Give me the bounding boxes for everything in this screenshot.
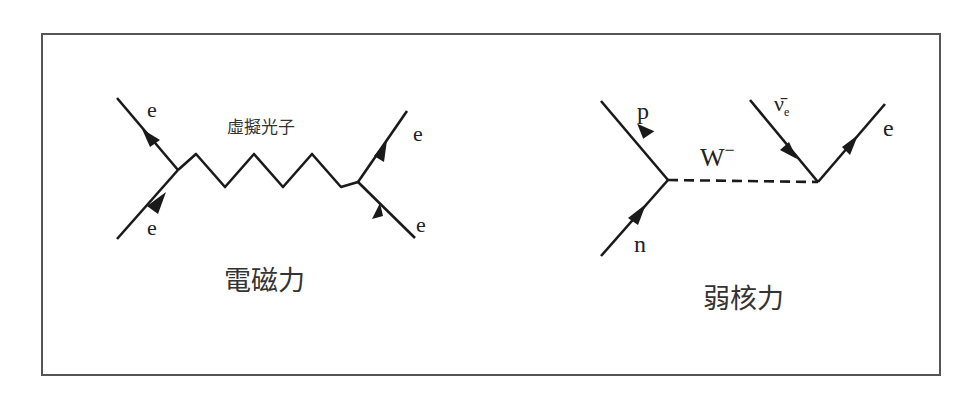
arrow-icon (635, 124, 655, 140)
arrow-icon (374, 140, 387, 162)
em-electron-in-right-line (358, 182, 415, 238)
weak-title: 弱核力 (703, 285, 784, 312)
weak-label-proton: p (637, 99, 649, 123)
em-title: 電磁力 (224, 267, 305, 294)
weak-label-neutron: n (634, 232, 646, 256)
weak-label-electron: e (883, 116, 894, 140)
feynman-diagrams (0, 0, 970, 397)
em-label-top-right: e (413, 123, 423, 145)
w-boson-dashed-line (668, 180, 818, 182)
proton-line (601, 101, 668, 180)
arrowheads (142, 124, 858, 225)
em-label-bottom-right: e (416, 214, 426, 236)
arrow-icon (780, 142, 797, 159)
em-label-bottom-left: e (147, 217, 157, 239)
w-boson-label: W− (700, 141, 735, 171)
em-label-top-left: e (147, 99, 157, 121)
virtual-photon-wavy-line (178, 154, 358, 187)
antineutrino-label: ν̄e (774, 93, 789, 118)
virtual-photon-label: 虛擬光子 (227, 119, 295, 136)
